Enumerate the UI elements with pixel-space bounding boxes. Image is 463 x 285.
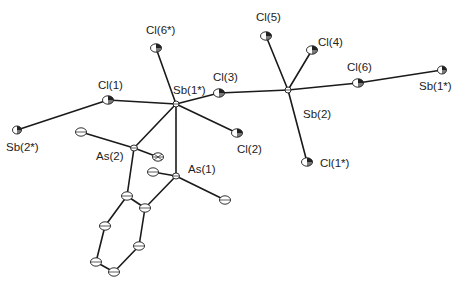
atom-sb2 [285,87,291,93]
atom-sb1r [438,66,447,74]
atom-cl6s [151,44,162,52]
atom-label-as1: As(1) [188,163,216,175]
bond-cl3-sb2 [219,90,288,93]
atom-r1 [122,192,133,200]
bond-sb2-cl4 [288,50,312,90]
atom-cl6 [353,79,364,87]
bond-sb1s-as2 [134,104,176,148]
bond-as2-r1 [127,148,134,196]
bond-sb1s-cl2 [176,104,237,133]
atom-cl2 [232,129,243,137]
atom-label-cl2: Cl(2) [237,143,262,155]
atom-cl4 [307,46,318,54]
atom-label-as2: As(2) [96,150,124,162]
atom-label-cl6: Cl(6) [347,61,372,73]
bond-sb2-cl5 [266,36,288,90]
atom-r3 [100,222,111,230]
atom-label-sb2s: Sb(2*) [6,141,39,153]
atom-as2 [131,145,138,151]
atom-cl3 [214,89,225,97]
atom-label-cl6s: Cl(6*) [146,24,176,36]
atom-label-sb1r: Sb(1*) [419,80,452,92]
bond-as1-c4 [176,176,225,200]
atom-label-cl1s: Cl(1*) [320,157,350,169]
atom-r2 [140,204,151,212]
bond-cl1-sb1s [108,100,176,104]
atom-r4 [134,242,145,250]
atom-c1 [76,128,87,136]
atom-c2 [153,153,164,161]
atom-cl5 [261,32,272,40]
atom-as1 [173,173,180,179]
atom-label-cl4: Cl(4) [318,36,343,48]
bond-r2-r4 [139,208,145,246]
atom-label-cl5: Cl(5) [256,11,281,23]
atom-sb1s [173,101,179,107]
atom-label-cl3: Cl(3) [213,71,238,83]
bond-as1-r2 [145,176,176,208]
atom-r5 [91,258,102,266]
bond-r4-r6 [114,246,139,272]
atom-label-sb2: Sb(2) [303,108,331,120]
atom-cl1s [302,158,313,166]
bond-r3-r5 [96,226,105,262]
bond-sb2-cl1s [288,90,307,162]
atom-c4 [220,196,231,204]
bond-sb2s-cl1 [17,100,108,130]
atom-sb2s [13,126,22,134]
bond-r1-r3 [105,196,127,226]
bond-sb2-cl6 [288,83,358,90]
atom-c3 [148,168,159,176]
molecular-structure-diagram: Sb(2*)Cl(1)Sb(1*)Cl(6*)Cl(3)Cl(2)Sb(2)Cl… [0,0,463,285]
bond-as2-c1 [81,132,134,148]
atom-cl1 [103,96,114,104]
atom-r6 [109,268,120,276]
atom-label-sb1s: Sb(1*) [173,84,206,96]
atoms-layer [13,32,447,276]
atom-label-cl1: Cl(1) [98,79,123,91]
